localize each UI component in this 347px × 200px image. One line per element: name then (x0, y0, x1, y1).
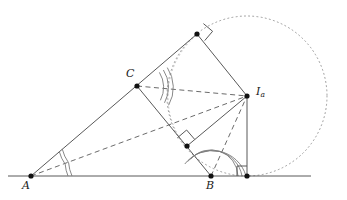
excenter-label-base: I (256, 85, 260, 98)
vertex-label-C: C (126, 68, 134, 79)
angle-arc-A-outer (65, 164, 68, 176)
geometry-figure-canvas: A B C Ia (0, 0, 347, 200)
dashed-B-to-Ia (211, 96, 247, 176)
point-C (134, 83, 139, 88)
segment-A-to-Tb (31, 34, 197, 176)
point-B (208, 173, 213, 178)
point-Ia (244, 93, 249, 98)
point-tangency-Tb (194, 31, 199, 36)
angle-arc-A-outer-2 (69, 163, 72, 176)
angle-arc-A-inner (59, 152, 65, 165)
geometry-diagram-svg (0, 0, 347, 200)
angle-arc-C-1 (159, 72, 163, 100)
dashed-C-to-Ia (137, 86, 247, 96)
excenter-label-Ia: Ia (256, 86, 265, 97)
vertex-label-B: B (206, 180, 214, 191)
point-tangency-Tc (184, 143, 189, 148)
point-A (28, 173, 33, 178)
segment-Tc-to-Ia (187, 96, 247, 146)
segment-Tb-to-Ia (197, 34, 247, 96)
vertex-label-A: A (22, 180, 30, 191)
point-tangency-Ta (244, 173, 249, 178)
segment-B-to-Tc-extended (137, 86, 211, 176)
dashed-A-to-Ia (31, 96, 247, 176)
excenter-label-subscript: a (261, 90, 265, 99)
